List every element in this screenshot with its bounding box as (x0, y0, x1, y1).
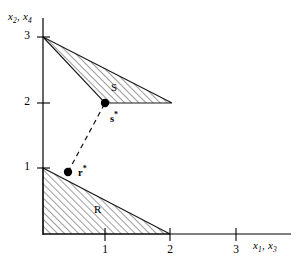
x-axis-title: x1, x3 (253, 239, 277, 254)
point-label-r-sup: * (83, 164, 87, 173)
y-tick-label-2: 2 (20, 95, 34, 107)
y-axis-title: x2, x4 (8, 10, 32, 25)
r-to-s-dashed-line (68, 103, 105, 172)
region-r (43, 168, 170, 234)
point-label-r-star: r* (78, 164, 87, 178)
y-tick-label-3: 3 (20, 29, 34, 41)
point-r-star-marker (64, 168, 72, 176)
plot-canvas (0, 0, 299, 265)
x-tick-label-3: 3 (229, 243, 243, 255)
x-axis-sub2: 3 (273, 245, 277, 254)
region-label-r: R (94, 203, 101, 215)
figure-container: x2, x4 x1, x3 3 2 1 1 2 3 S R s* r* (0, 0, 299, 265)
region-label-s: S (111, 81, 117, 93)
y-axis-sub2: 4 (28, 16, 32, 25)
x-tick-label-1: 1 (98, 243, 112, 255)
point-s-star-marker (101, 99, 109, 107)
region-s (43, 37, 172, 103)
point-label-s-sup: * (114, 110, 118, 119)
x-tick-label-2: 2 (163, 243, 177, 255)
point-label-s-star: s* (110, 110, 118, 124)
y-tick-label-1: 1 (20, 160, 34, 172)
